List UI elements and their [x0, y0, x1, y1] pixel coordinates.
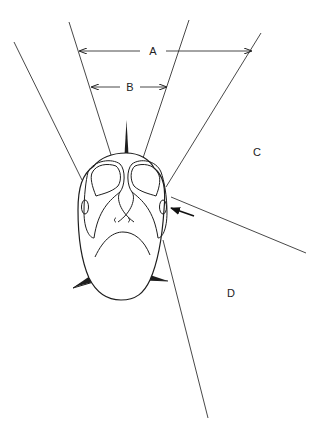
- dimension-a: A: [80, 45, 251, 57]
- label-d: D: [227, 287, 235, 299]
- fish-visual-field-diagram: A B C D: [0, 0, 326, 422]
- outer-left-field-line: [14, 42, 82, 180]
- inner-right-field-line: [143, 20, 189, 158]
- outer-right-field-line: [166, 33, 261, 187]
- label-b: B: [126, 81, 133, 93]
- pointer-arrow: [171, 208, 194, 216]
- dorsal-spine: [125, 120, 129, 155]
- inner-left-field-line: [69, 22, 112, 158]
- label-c: C: [253, 146, 261, 158]
- fish-head-drawing: [73, 120, 168, 300]
- dimension-b: B: [92, 81, 166, 93]
- label-a: A: [149, 45, 157, 57]
- posterior-field-line: [163, 240, 208, 418]
- lateral-field-line: [171, 197, 306, 253]
